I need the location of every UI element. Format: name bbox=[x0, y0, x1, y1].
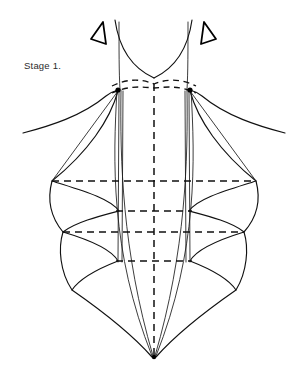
left-bust-point-node bbox=[115, 87, 120, 92]
pattern-drawing bbox=[0, 0, 307, 384]
left-seam-vertical-a bbox=[118, 91, 119, 262]
left-upper-panel-line bbox=[52, 91, 118, 181]
left-dart-inner-line bbox=[121, 90, 153, 356]
left-side-scallop-seam bbox=[52, 91, 152, 357]
left-seam-vertical-b bbox=[122, 91, 123, 262]
left-strap-inner-line bbox=[119, 22, 120, 90]
left-dart-outer-line bbox=[115, 90, 152, 356]
stage-caption-label: Stage 1. bbox=[24, 60, 61, 71]
right-dart-inner-line bbox=[155, 90, 187, 356]
right-strap-outer-line bbox=[154, 20, 192, 78]
right-bust-point-node bbox=[187, 87, 192, 92]
right-scallop-edge-upper bbox=[244, 181, 258, 232]
triangle-left-icon bbox=[91, 22, 106, 44]
left-scallop-edge-upper bbox=[50, 181, 63, 232]
right-seam-vertical-a bbox=[189, 91, 190, 262]
right-dart-outer-line bbox=[156, 90, 193, 356]
triangle-right-icon bbox=[201, 22, 216, 44]
left-scallop-edge-lower bbox=[60, 232, 72, 290]
right-upper-panel-line bbox=[190, 91, 256, 181]
right-scallop-edge-lower bbox=[236, 232, 247, 290]
right-side-scallop-seam bbox=[156, 91, 256, 357]
right-shoulder-curve bbox=[190, 90, 285, 133]
left-strap-outer-line bbox=[115, 20, 154, 78]
pattern-diagram-canvas: Stage 1. bbox=[0, 0, 307, 384]
hem-apex-node bbox=[152, 355, 156, 359]
left-shoulder-curve bbox=[23, 90, 118, 133]
right-strap-inner-line bbox=[187, 22, 188, 90]
right-seam-vertical-b bbox=[185, 91, 186, 262]
